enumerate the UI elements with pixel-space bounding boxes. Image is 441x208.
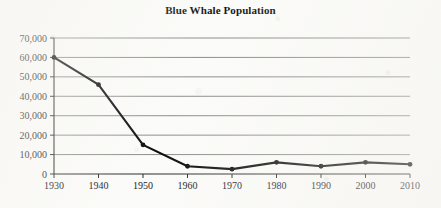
- data-point-marker: [319, 164, 324, 169]
- chart-title: Blue Whale Population: [0, 4, 441, 16]
- data-point-marker: [96, 82, 101, 87]
- y-tick-label: 70,000: [20, 33, 48, 44]
- x-tick-label: 1980: [267, 180, 287, 191]
- y-tick-label: 60,000: [20, 52, 48, 63]
- data-point-markers: [52, 55, 413, 172]
- x-tick-label: 2010: [400, 180, 420, 191]
- x-tick-label: 1930: [44, 180, 64, 191]
- x-tick-label: 1940: [89, 180, 109, 191]
- y-tick-label: 40,000: [20, 91, 48, 102]
- x-axis-tick-labels: 193019401950196019701980199020002010: [44, 180, 420, 191]
- y-tick-label: 0: [42, 169, 47, 180]
- blue-whale-population-line-chart: 010,00020,00030,00040,00050,00060,00070,…: [0, 0, 441, 208]
- data-point-marker: [408, 162, 413, 167]
- y-tick-label: 30,000: [20, 110, 48, 121]
- data-point-marker: [141, 142, 146, 147]
- y-tick-label: 10,000: [20, 149, 48, 160]
- x-tick-label: 1970: [222, 180, 242, 191]
- data-point-marker: [52, 55, 57, 60]
- x-tick-label: 1990: [311, 180, 331, 191]
- y-tick-label: 20,000: [20, 130, 48, 141]
- y-tick-label: 50,000: [20, 71, 48, 82]
- data-point-marker: [185, 164, 190, 169]
- x-tick-label: 1960: [178, 180, 198, 191]
- data-point-marker: [274, 160, 279, 165]
- data-series-line: [54, 57, 410, 169]
- x-axis-ticks: [54, 174, 410, 178]
- x-tick-label: 1950: [133, 180, 153, 191]
- data-point-marker: [363, 160, 368, 165]
- data-point-marker: [230, 167, 235, 172]
- y-axis-tick-labels: 010,00020,00030,00040,00050,00060,00070,…: [20, 33, 48, 180]
- x-tick-label: 2000: [356, 180, 376, 191]
